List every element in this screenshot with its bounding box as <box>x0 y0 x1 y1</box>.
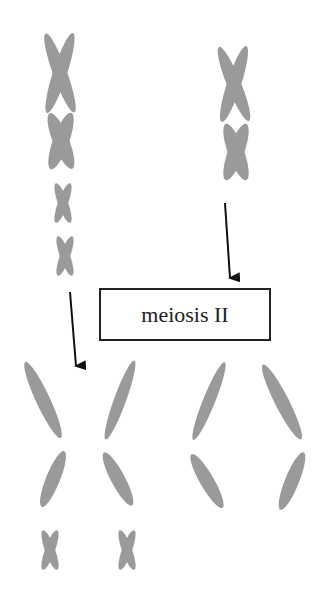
meiosis-label: meiosis II <box>141 302 228 328</box>
chromosome-x-small <box>38 529 62 572</box>
chromatid <box>274 450 310 513</box>
chromosome-x-small <box>51 182 75 225</box>
chromatid <box>98 449 139 509</box>
chromosome-x-large <box>213 44 256 124</box>
chromosome-x-large <box>39 31 81 115</box>
chromatid <box>188 360 231 442</box>
chromosome-x-large <box>218 121 254 183</box>
meiosis-label-box: meiosis II <box>99 288 271 341</box>
chromatid <box>35 449 70 510</box>
chromatid <box>100 358 140 441</box>
chromosome-x-small <box>115 529 139 572</box>
chromatid <box>257 361 308 442</box>
chromosome-x-small <box>53 235 77 278</box>
arrow-left-icon <box>70 292 76 366</box>
chromatid <box>185 451 228 512</box>
arrow-right-icon <box>225 203 230 278</box>
chromatid <box>19 359 67 441</box>
chromosome-x-large <box>42 110 79 172</box>
